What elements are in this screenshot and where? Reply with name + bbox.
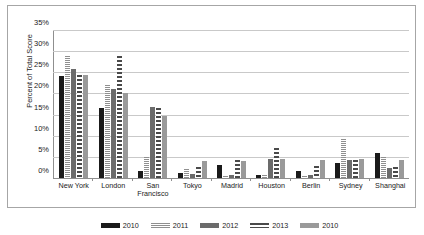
bar bbox=[262, 175, 267, 178]
x-tick-label: San Francisco bbox=[133, 182, 173, 199]
bar bbox=[347, 160, 352, 178]
bar bbox=[241, 161, 246, 178]
chart-frame: Percent of Total Score 0%5%10%15%20%25%3… bbox=[7, 5, 416, 208]
bar bbox=[83, 75, 88, 178]
y-tick-label: 35% bbox=[34, 18, 49, 27]
bar-group bbox=[212, 31, 251, 178]
bar-group bbox=[251, 31, 290, 178]
bar bbox=[196, 167, 201, 178]
legend-swatch bbox=[200, 223, 219, 228]
y-axis-title: Percent of Total Score bbox=[25, 11, 39, 131]
legend-label: 2011 bbox=[173, 221, 188, 230]
x-tick-label: London bbox=[94, 182, 134, 199]
x-tick-label: New York bbox=[54, 182, 94, 199]
bar bbox=[359, 159, 364, 178]
x-axis-labels: New YorkLondonSan FranciscoTokyoMadridHo… bbox=[54, 182, 410, 199]
bar bbox=[341, 139, 346, 178]
bar bbox=[399, 160, 404, 178]
legend-label: 2010 bbox=[322, 221, 338, 230]
bar bbox=[217, 165, 222, 178]
y-tick-label: 30% bbox=[34, 39, 49, 48]
bar bbox=[99, 108, 104, 178]
x-tick-mark bbox=[329, 178, 330, 181]
legend-item[interactable]: 2011 bbox=[151, 221, 188, 230]
bar bbox=[184, 169, 189, 178]
bar bbox=[162, 116, 167, 178]
bar bbox=[111, 89, 116, 178]
gridline bbox=[53, 178, 409, 179]
x-tick-mark bbox=[211, 178, 212, 181]
x-tick-label: Sydney bbox=[331, 182, 371, 199]
y-tick-label: 10% bbox=[34, 123, 49, 132]
x-tick-mark bbox=[171, 178, 172, 181]
bar bbox=[71, 69, 76, 178]
bar bbox=[202, 161, 207, 178]
y-tick-label: 20% bbox=[34, 81, 49, 90]
bar bbox=[268, 159, 273, 178]
legend-swatch bbox=[250, 223, 269, 228]
legend-label: 2010 bbox=[123, 221, 139, 230]
x-tick-mark bbox=[132, 178, 133, 181]
bar bbox=[138, 171, 143, 178]
chart-screenshot: Percent of Total Score 0%5%10%15%20%25%3… bbox=[0, 0, 424, 235]
plot-inner: 0%5%10%15%20%25%30%35% bbox=[53, 31, 409, 179]
bar-group bbox=[172, 31, 211, 178]
bar bbox=[274, 148, 279, 178]
bar bbox=[156, 108, 161, 178]
bar bbox=[190, 174, 195, 178]
legend-item[interactable]: 2013 bbox=[250, 221, 288, 230]
bar bbox=[280, 159, 285, 178]
bar bbox=[65, 56, 70, 178]
bar bbox=[308, 175, 313, 178]
x-tick-label: Madrid bbox=[212, 182, 252, 199]
y-tick-label: 0% bbox=[38, 166, 49, 175]
bar bbox=[335, 163, 340, 178]
bar bbox=[320, 160, 325, 178]
bar-group bbox=[370, 31, 409, 178]
bar-group bbox=[330, 31, 369, 178]
bar bbox=[178, 173, 183, 178]
y-tick-label: 15% bbox=[34, 102, 49, 111]
bar bbox=[77, 75, 82, 178]
x-tick-label: Tokyo bbox=[173, 182, 213, 199]
bar-groups bbox=[54, 31, 409, 178]
plot-area: 0%5%10%15%20%25%30%35% bbox=[53, 31, 409, 179]
bar-group bbox=[133, 31, 172, 178]
y-tick-label: 5% bbox=[38, 144, 49, 153]
bar bbox=[387, 168, 392, 179]
bar bbox=[123, 93, 128, 178]
chart-legend: 20102011201220132010 bbox=[15, 214, 424, 235]
bar-group bbox=[291, 31, 330, 178]
legend-item[interactable]: 2010 bbox=[300, 221, 338, 230]
x-tick-label: Berlin bbox=[291, 182, 331, 199]
legend-swatch bbox=[300, 223, 319, 228]
bar bbox=[117, 56, 122, 178]
bar bbox=[302, 176, 307, 178]
x-tick-mark bbox=[290, 178, 291, 181]
bar bbox=[353, 160, 358, 178]
bar bbox=[296, 171, 301, 178]
bar bbox=[375, 153, 380, 178]
bar bbox=[381, 157, 386, 178]
x-tick-label: Shanghai bbox=[371, 182, 411, 199]
bar bbox=[223, 176, 228, 178]
x-tick-mark bbox=[369, 178, 370, 181]
legend-swatch bbox=[151, 223, 170, 228]
bar bbox=[150, 107, 155, 178]
legend-label: 2012 bbox=[222, 221, 238, 230]
legend-item[interactable]: 2012 bbox=[200, 221, 238, 230]
x-tick-label: Houston bbox=[252, 182, 292, 199]
x-tick-mark bbox=[250, 178, 251, 181]
bar bbox=[256, 175, 261, 178]
bar bbox=[229, 175, 234, 178]
legend-label: 2013 bbox=[272, 221, 288, 230]
legend-item[interactable]: 2010 bbox=[101, 221, 139, 230]
legend-swatch bbox=[101, 223, 120, 228]
bar bbox=[144, 157, 149, 178]
bar bbox=[235, 160, 240, 178]
bar-group bbox=[93, 31, 132, 178]
bar bbox=[314, 166, 319, 178]
x-tick-mark bbox=[92, 178, 93, 181]
bar bbox=[59, 76, 64, 178]
bar bbox=[105, 85, 110, 178]
